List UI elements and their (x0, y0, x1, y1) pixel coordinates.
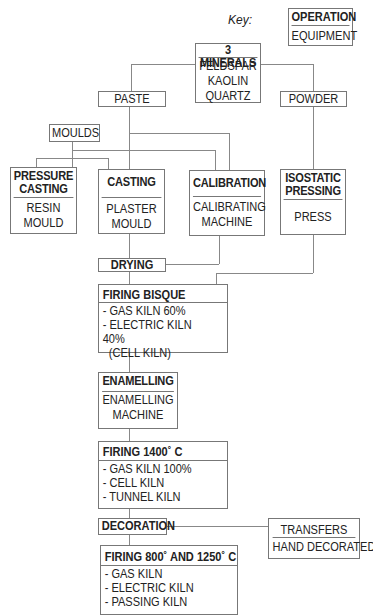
firing-bisque-item: - ELECTRIC KILN 40% (99, 318, 217, 346)
enamelling-title: ENAMELLING (102, 373, 174, 392)
paste-box: PASTE (98, 91, 166, 107)
firing-1400-item: - CELL KILN (99, 476, 217, 490)
decoration-box: DECORATION (98, 518, 167, 535)
firing-1400-item: - TUNNEL KILN (99, 490, 217, 504)
connector-paste-casting (129, 106, 130, 169)
drying-label: DRYING (102, 259, 163, 272)
connector-paste-calibration-v (229, 133, 230, 170)
isostatic-title-line2: PRESSING (284, 185, 343, 198)
decoration-label: DECORATION (102, 519, 164, 533)
connector-minerals-paste-v (131, 64, 132, 91)
firing-bisque-item: - GAS KILN 60% (99, 304, 217, 318)
mineral-item: QUARTZ (199, 89, 258, 104)
connector-powder-isostatic (313, 106, 314, 169)
paste-label: PASTE (102, 92, 163, 106)
minerals-box: 3 MINERALS FELDSPAR KAOLIN QUARTZ (195, 43, 261, 103)
connector-moulds-branch-h (36, 158, 108, 159)
isostatic-title: ISOSTATIC PRESSING (284, 170, 343, 200)
calibration-title: CALIBRATION (193, 171, 261, 197)
connector-casting-drying (129, 233, 130, 258)
connector-decoration-methods (166, 526, 268, 527)
connector-isostatic-bisque-v2 (216, 273, 217, 284)
firing-1400-header: FIRING 1400˚ C (99, 442, 227, 461)
connector-minerals-paste-h (131, 64, 195, 65)
pressure-casting-box: PRESSURE CASTING RESIN MOULD (10, 167, 77, 234)
connector-isostatic-bisque-v (313, 234, 314, 273)
firing-1400-title: FIRING 1400˚ C (99, 445, 217, 459)
moulds-box: MOULDS (49, 124, 100, 142)
casting-title: CASTING (102, 170, 162, 198)
connector-moulds-casting-v (108, 158, 109, 169)
firing-bisque-title: FIRING BISQUE (99, 288, 217, 302)
connector-paste-calibration-h (129, 133, 229, 134)
key-equipment: EQUIPMENT (292, 26, 350, 43)
enamelling-equip-line1: ENAMELLING (102, 393, 174, 408)
calibration-equip-line1: CALIBRATING (193, 200, 261, 215)
moulds-label: MOULDS (52, 125, 97, 140)
firing-bisque-box: FIRING BISQUE - GAS KILN 60% - ELECTRIC … (98, 284, 228, 353)
firing-bisque-item: (CELL KILN) (99, 346, 217, 360)
connector-isostatic-bisque-h (216, 273, 313, 274)
enamelling-box: ENAMELLING ENAMELLING MACHINE (98, 372, 178, 429)
firing-bisque-header: FIRING BISQUE (99, 285, 227, 303)
hand-decorated-label: HAND DECORATED (273, 538, 356, 554)
pressure-casting-title: PRESSURE CASTING (14, 168, 74, 198)
isostatic-equip: PRESS (284, 210, 343, 225)
connector-enamelling-firing1400 (129, 428, 130, 441)
key-label: Key: (228, 13, 252, 27)
connector-decoration-firing800 (129, 534, 130, 545)
connector-calibration-drying-h (166, 264, 219, 265)
isostatic-pressing-box: ISOSTATIC PRESSING PRESS (280, 169, 346, 235)
key-box: OPERATION EQUIPMENT (288, 8, 353, 46)
connector-minerals-powder-v (313, 64, 314, 91)
connector-moulds-calibration-v (215, 150, 216, 170)
pressure-casting-equip-line2: MOULD (14, 216, 74, 231)
firing-800-item: - GAS KILN (101, 567, 226, 581)
powder-label: POWDER (284, 92, 344, 106)
connector-moulds-pressure-v (36, 158, 37, 167)
transfers-label: TRANSFERS (273, 519, 356, 538)
firing-1400-box: FIRING 1400˚ C - GAS KILN 100% - CELL KI… (98, 441, 228, 509)
casting-box: CASTING PLASTER MOULD (98, 169, 165, 234)
firing-800-item: - ELECTRIC KILN (101, 581, 226, 595)
mineral-item: KAOLIN (199, 74, 258, 89)
firing-800-header: FIRING 800˚ AND 1250˚ C (101, 546, 237, 566)
casting-equip-line1: PLASTER (102, 202, 162, 217)
connector-calibration-drying-v (219, 235, 220, 264)
enamelling-equip-line2: MACHINE (102, 408, 174, 423)
connector-drying-bisque (129, 271, 130, 284)
connector-firing1400-decoration (129, 508, 130, 518)
drying-box: DRYING (98, 258, 166, 272)
pressure-casting-equip-line1: RESIN (14, 201, 74, 216)
connector-moulds-calibration-h (72, 150, 215, 151)
powder-box: POWDER (280, 91, 347, 107)
minerals-title: 3 MINERALS (199, 44, 258, 58)
connector-minerals-powder-h (260, 64, 313, 65)
firing-800-title: FIRING 800˚ AND 1250˚ C (101, 550, 226, 564)
firing-800-box: FIRING 800˚ AND 1250˚ C - GAS KILN - ELE… (100, 545, 238, 615)
mineral-item: FELDSPAR (199, 59, 258, 74)
calibration-equip-line2: MACHINE (193, 215, 261, 230)
pressure-casting-title-line2: CASTING (14, 183, 74, 196)
casting-equip-line2: MOULD (102, 217, 162, 232)
key-operation: OPERATION (292, 9, 350, 26)
firing-800-item: - PASSING KILN (101, 595, 226, 609)
firing-1400-item: - GAS KILN 100% (99, 462, 217, 476)
calibration-box: CALIBRATION CALIBRATING MACHINE (189, 170, 265, 236)
decoration-methods-box: TRANSFERS HAND DECORATED (268, 518, 360, 559)
